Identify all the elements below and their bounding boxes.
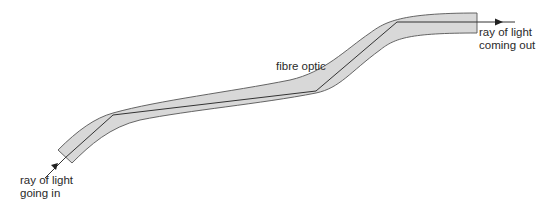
fibre-optic-label: fibre optic xyxy=(276,60,326,72)
light-ray-path xyxy=(45,22,515,178)
fibre-optic-cable xyxy=(58,13,477,163)
fibre-optic-diagram: fibre optic ray of light going in ray of… xyxy=(0,0,551,213)
ray-out-label-line2: coming out xyxy=(479,39,536,51)
ray-in-label-line2: going in xyxy=(20,187,60,199)
ray-out-label-line1: ray of light xyxy=(479,26,533,38)
arrow-out-icon xyxy=(495,19,503,26)
ray-in-label-line1: ray of light xyxy=(20,174,74,186)
